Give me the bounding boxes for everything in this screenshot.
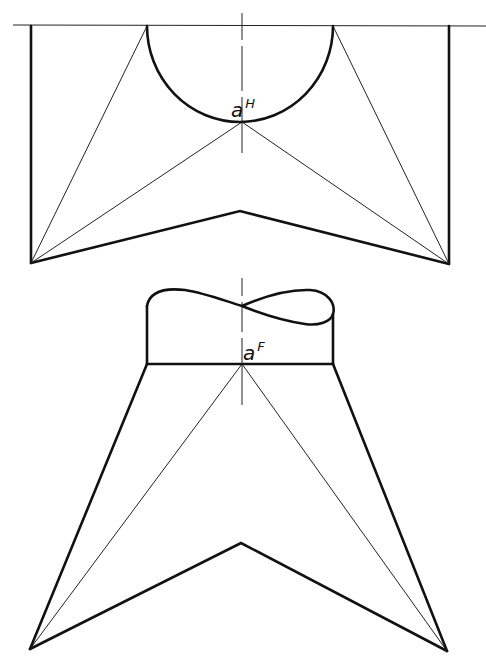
bottom-chevron (31, 211, 449, 264)
skirt-bottom-chevron (30, 543, 447, 651)
projection-drawing: aH aF (0, 0, 486, 670)
skirt-right-edge (333, 364, 447, 651)
skirt-left-edge (30, 364, 147, 649)
front-view: aF (30, 278, 447, 651)
front-view-construction-lines (30, 364, 447, 651)
curved-top-profile (147, 289, 334, 324)
point-label-aF: aF (243, 339, 265, 365)
top-view: aH (13, 13, 486, 264)
top-view-construction-lines (31, 26, 449, 264)
top-edge-line (13, 25, 486, 26)
point-label-aH: aH (231, 96, 255, 122)
